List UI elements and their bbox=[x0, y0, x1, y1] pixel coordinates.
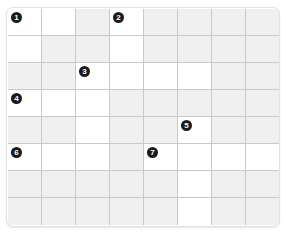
crossword-cell-blocked bbox=[144, 9, 178, 36]
crossword-cell-blocked bbox=[246, 36, 280, 63]
crossword-cell-blocked bbox=[42, 63, 76, 90]
crossword-cell-blocked bbox=[110, 90, 144, 117]
clue-number-marker: 2 bbox=[113, 12, 124, 23]
crossword-cell-blocked bbox=[42, 117, 76, 144]
crossword-cell-open[interactable] bbox=[212, 144, 246, 171]
crossword-cell-open[interactable]: 4 bbox=[8, 90, 42, 117]
crossword-cell-blocked bbox=[178, 90, 212, 117]
crossword-cell-open[interactable] bbox=[42, 90, 76, 117]
crossword-cell-blocked bbox=[246, 117, 280, 144]
crossword-cell-blocked bbox=[8, 117, 42, 144]
crossword-cell-open[interactable]: 3 bbox=[76, 63, 110, 90]
crossword-cell-blocked bbox=[76, 36, 110, 63]
crossword-cell-blocked bbox=[212, 117, 246, 144]
crossword-cell-open[interactable] bbox=[42, 9, 76, 36]
crossword-cell-blocked bbox=[110, 117, 144, 144]
crossword-cell-open[interactable]: 5 bbox=[178, 117, 212, 144]
crossword-cell-open[interactable] bbox=[8, 36, 42, 63]
crossword-cell-open[interactable] bbox=[76, 90, 110, 117]
crossword-cell-open[interactable] bbox=[178, 171, 212, 198]
crossword-cell-blocked bbox=[212, 90, 246, 117]
crossword-cell-open[interactable] bbox=[178, 144, 212, 171]
crossword-cell-blocked bbox=[8, 198, 42, 225]
crossword-cell-open[interactable]: 7 bbox=[144, 144, 178, 171]
crossword-cell-blocked bbox=[144, 198, 178, 225]
crossword-cell-open[interactable] bbox=[246, 144, 280, 171]
crossword-cell-blocked bbox=[212, 36, 246, 63]
crossword-cell-blocked bbox=[246, 90, 280, 117]
clue-number-marker: 6 bbox=[11, 147, 22, 158]
clue-number-marker: 5 bbox=[181, 120, 192, 131]
crossword-cell-blocked bbox=[76, 198, 110, 225]
crossword-cell-blocked bbox=[212, 9, 246, 36]
crossword-cell-open[interactable] bbox=[110, 36, 144, 63]
crossword-cell-open[interactable] bbox=[76, 117, 110, 144]
crossword-cell-blocked bbox=[246, 9, 280, 36]
crossword-cell-blocked bbox=[144, 117, 178, 144]
crossword-cell-blocked bbox=[246, 63, 280, 90]
crossword-cell-open[interactable] bbox=[144, 63, 178, 90]
crossword-cell-blocked bbox=[212, 198, 246, 225]
crossword-cell-blocked bbox=[178, 36, 212, 63]
crossword-frame: 1234567 bbox=[6, 7, 280, 227]
crossword-cell-open[interactable] bbox=[110, 63, 144, 90]
crossword-cell-blocked bbox=[42, 198, 76, 225]
crossword-cell-blocked bbox=[212, 171, 246, 198]
crossword-cell-blocked bbox=[76, 171, 110, 198]
crossword-cell-open[interactable]: 1 bbox=[8, 9, 42, 36]
crossword-cell-blocked bbox=[42, 36, 76, 63]
clue-number-marker: 4 bbox=[11, 93, 22, 104]
crossword-cell-open[interactable]: 6 bbox=[8, 144, 42, 171]
crossword-cell-open[interactable] bbox=[178, 198, 212, 225]
crossword-cell-blocked bbox=[110, 171, 144, 198]
crossword-cell-blocked bbox=[246, 171, 280, 198]
crossword-cell-open[interactable] bbox=[42, 144, 76, 171]
crossword-cell-blocked bbox=[110, 144, 144, 171]
crossword-cell-blocked bbox=[76, 9, 110, 36]
crossword-cell-blocked bbox=[8, 63, 42, 90]
crossword-cell-blocked bbox=[8, 171, 42, 198]
crossword-cell-open[interactable] bbox=[76, 144, 110, 171]
crossword-cell-blocked bbox=[42, 171, 76, 198]
crossword-grid: 1234567 bbox=[8, 9, 280, 225]
crossword-cell-open[interactable]: 2 bbox=[110, 9, 144, 36]
crossword-cell-open[interactable] bbox=[178, 63, 212, 90]
crossword-cell-blocked bbox=[178, 9, 212, 36]
crossword-cell-blocked bbox=[110, 198, 144, 225]
crossword-cell-blocked bbox=[246, 198, 280, 225]
crossword-cell-blocked bbox=[144, 90, 178, 117]
crossword-cell-blocked bbox=[144, 171, 178, 198]
clue-number-marker: 7 bbox=[147, 147, 158, 158]
clue-number-marker: 3 bbox=[79, 66, 90, 77]
crossword-cell-blocked bbox=[212, 63, 246, 90]
crossword-puzzle: 1234567 bbox=[0, 0, 286, 234]
crossword-cell-blocked bbox=[144, 36, 178, 63]
clue-number-marker: 1 bbox=[11, 12, 22, 23]
